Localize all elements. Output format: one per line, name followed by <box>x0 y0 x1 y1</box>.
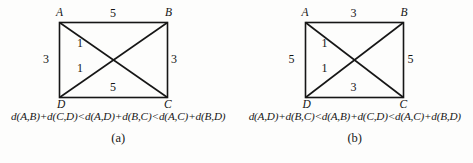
panel-caption-a: (a) <box>0 131 237 146</box>
edge-label-b-right: 5 <box>408 53 414 65</box>
vertex-label-a-top-right: B <box>165 7 172 19</box>
edge-label-b-diagonal-lower: 1 <box>322 62 328 74</box>
panel-a: A B C D 5 3 3 5 1 1 d(A,B)+d(C,D)<d(A,D)… <box>0 0 237 163</box>
vertex-label-b-top-left: A <box>302 7 309 19</box>
vertex-label-a-top-left: A <box>56 7 63 19</box>
edge-label-a-diagonal-upper: 1 <box>77 37 83 49</box>
diagram-svg-a <box>0 0 236 110</box>
vertex-label-a-bottom-right: C <box>164 99 172 111</box>
edge-label-b-left: 5 <box>289 53 295 65</box>
vertex-label-b-top-right: B <box>401 7 408 19</box>
figure-container: A B C D 5 3 3 5 1 1 d(A,B)+d(C,D)<d(A,D)… <box>0 0 473 163</box>
panel-b: A B C D 3 5 5 3 1 1 d(A,D)+d(B,C)<d(A,B)… <box>237 0 473 163</box>
edge-label-a-right: 3 <box>171 53 177 65</box>
inequality-formula-b: d(A,D)+d(B,C)<d(A,B)+d(C,D)<d(A,C)+d(B,D… <box>237 110 473 122</box>
inequality-formula-a: d(A,B)+d(C,D)<d(A,D)+d(B,C)<d(A,C)+d(B,D… <box>0 110 237 122</box>
edge-label-a-left: 3 <box>43 53 49 65</box>
rectangle-diagram-a: A B C D 5 3 3 5 1 1 <box>0 0 237 110</box>
vertex-label-b-bottom-right: C <box>400 99 408 111</box>
edge-label-b-diagonal-upper: 1 <box>322 37 328 49</box>
edge-label-b-bottom: 3 <box>351 81 357 93</box>
edge-label-a-top: 5 <box>110 7 116 19</box>
vertex-label-a-bottom-left: D <box>57 99 65 111</box>
vertex-label-b-bottom-left: D <box>303 99 311 111</box>
rectangle-diagram-b: A B C D 3 5 5 3 1 1 <box>237 0 473 110</box>
edge-label-a-bottom: 5 <box>110 81 116 93</box>
panel-caption-b: (b) <box>237 131 473 146</box>
edge-label-b-top: 3 <box>351 7 357 19</box>
edge-label-a-diagonal-lower: 1 <box>77 62 83 74</box>
